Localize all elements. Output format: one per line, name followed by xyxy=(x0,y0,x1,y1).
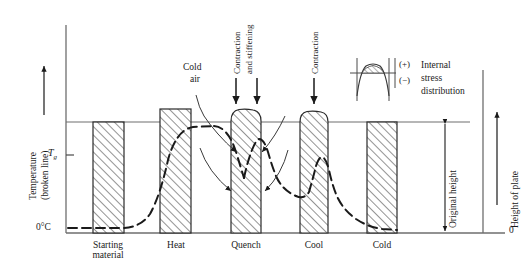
stress-negative-label: (−) xyxy=(399,76,410,86)
original-height-label: Original height xyxy=(448,98,458,228)
y-axis-left-title: Temperature xyxy=(28,40,38,200)
cold-air-leader xyxy=(196,95,204,116)
y-tick-label-zero-c: 0°C xyxy=(36,222,51,232)
contraction-label: Contraction xyxy=(311,0,321,74)
diagram-svg xyxy=(0,0,523,267)
cold-air-label-line2: air xyxy=(190,74,200,84)
stress-distribution-title-line1: Internal xyxy=(421,60,451,70)
contraction-stiffening-label-line1: Contraction xyxy=(233,0,243,74)
stress-distribution-title-line2: stress xyxy=(421,73,442,83)
figure-canvas: Temperature (broken line) Tg 0°C Height … xyxy=(0,0,523,267)
stress-distribution-inset xyxy=(350,58,396,101)
category-label-cool: Cool xyxy=(288,240,340,250)
stress-positive-label: (+) xyxy=(399,60,410,70)
category-label-cold: Cold xyxy=(356,240,408,250)
cold-air-arrow-lower xyxy=(200,148,231,191)
y-axis-right-title: Height of plate xyxy=(510,88,520,228)
y-axis-left-title-line1: Temperature xyxy=(28,152,38,200)
category-label-heat: Heat xyxy=(150,240,202,250)
y-tick-label-zero-right: 0 xyxy=(509,225,514,235)
category-label-starting-material-line2: material xyxy=(78,250,138,260)
y-axis-left-subtitle: (broken line) xyxy=(40,40,50,200)
contraction-stiffening-label-line2: and stiffening xyxy=(245,0,255,74)
bar-cold xyxy=(367,122,397,233)
cold-air-label-line1: Cold xyxy=(183,62,201,72)
y-tick-label-tg: Tg xyxy=(48,148,57,162)
category-label-starting-material-line1: Starting xyxy=(78,240,138,250)
category-label-quench: Quench xyxy=(219,240,273,250)
bar-starting-material xyxy=(93,122,124,233)
stress-distribution-title-line3: distribution xyxy=(421,86,465,96)
category-label-starting-material: Starting material xyxy=(78,240,138,261)
